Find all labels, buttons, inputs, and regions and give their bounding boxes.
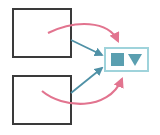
diagram-canvas: [0, 0, 160, 135]
square-glyph[interactable]: [111, 53, 124, 66]
teal-arrow-from-bottom-box: [71, 68, 102, 93]
teal-arrow-from-top-box: [71, 40, 102, 55]
icon-panel[interactable]: [104, 47, 149, 72]
pink-curve-from-top-box: [48, 24, 118, 41]
triangle-down-glyph[interactable]: [128, 54, 142, 66]
pink-curve-from-bottom-box: [42, 79, 122, 104]
